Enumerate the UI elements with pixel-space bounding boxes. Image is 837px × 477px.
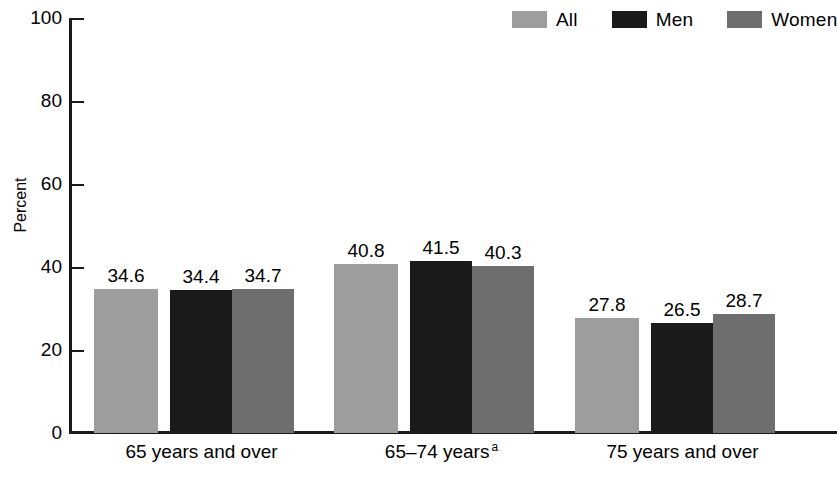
bar-men-g2[interactable] (410, 261, 472, 433)
bar-value-label-men-g3: 26.5 (647, 300, 717, 319)
bar-value-label-women-g2: 40.3 (468, 243, 538, 262)
bar-group-65-and-over: 34.6 34.4 34.7 (94, 18, 309, 433)
bar-all-g3[interactable] (575, 318, 639, 433)
bar-women-g2[interactable] (472, 266, 534, 433)
x-category-text-1: 65 years and over (125, 441, 277, 462)
bar-group-75-and-over: 27.8 26.5 28.7 (575, 18, 790, 433)
y-tick-label-60: 60 (18, 174, 62, 193)
bar-value-label-all-g1: 34.6 (91, 266, 161, 285)
x-category-label-65-and-over: 65 years and over (94, 441, 309, 463)
y-tick-label-20: 20 (18, 340, 62, 359)
bar-men-g1[interactable] (170, 290, 232, 433)
bar-value-label-women-g1: 34.7 (228, 266, 298, 285)
bar-value-label-women-g3: 28.7 (709, 291, 779, 310)
bar-chart: All Men Women Percent 100 80 60 40 20 0 (0, 0, 837, 477)
y-tick-label-40: 40 (18, 257, 62, 276)
bar-value-label-all-g3: 27.8 (572, 295, 642, 314)
y-tick-label-0: 0 (18, 423, 62, 442)
x-category-label-75-and-over: 75 years and over (575, 441, 790, 463)
x-category-label-65-74: 65–74 yearsa (334, 441, 549, 463)
x-category-text-2: 65–74 years (385, 441, 490, 462)
bar-value-label-men-g1: 34.4 (166, 267, 236, 286)
bar-value-label-men-g2: 41.5 (406, 238, 476, 257)
bar-all-g2[interactable] (334, 264, 398, 433)
plot-area: 34.6 34.4 34.7 40.8 41.5 40.3 27.8 26.5 … (72, 18, 837, 433)
bar-women-g3[interactable] (713, 314, 775, 433)
bar-women-g1[interactable] (232, 289, 294, 433)
bar-men-g3[interactable] (651, 323, 713, 433)
y-tick-label-80: 80 (18, 91, 62, 110)
bar-all-g1[interactable] (94, 289, 158, 433)
y-tick-label-100: 100 (18, 8, 62, 27)
x-category-text-3: 75 years and over (606, 441, 758, 462)
bar-value-label-all-g2: 40.8 (331, 241, 401, 260)
x-category-footnote-marker: a (489, 440, 498, 454)
bar-group-65-74: 40.8 41.5 40.3 (334, 18, 549, 433)
